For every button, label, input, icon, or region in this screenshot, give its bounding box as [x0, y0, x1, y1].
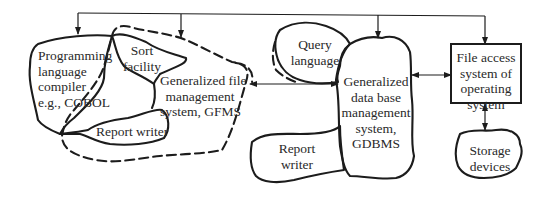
label-line: Generalized file	[160, 73, 240, 89]
sort-facility-label: Sort facility	[120, 43, 164, 74]
label-line: Report writer	[96, 124, 168, 140]
label-line: data base	[340, 90, 412, 106]
report-writer-left-label: Report writer	[96, 124, 168, 140]
label-line: language	[38, 64, 112, 80]
label-line: system,	[340, 121, 412, 137]
label-line: compiler	[38, 79, 112, 95]
label-line: Storage	[460, 143, 520, 159]
report-writer-right-label: Report writer	[272, 141, 322, 172]
label-line: language	[290, 53, 340, 69]
label-line: facility	[120, 59, 164, 75]
file-access-label: File access system of operating system	[451, 50, 521, 112]
label-line: GDBMS	[340, 136, 412, 152]
label-line: Programming	[38, 48, 112, 64]
gfms-divider	[152, 84, 155, 108]
label-line: Sort	[120, 43, 164, 59]
label-line: system	[451, 97, 521, 113]
label-line: management	[160, 89, 240, 105]
query-language-label: Query language	[290, 37, 340, 68]
compiler-label: Programming language compiler e.g., COBO…	[38, 48, 112, 110]
gdbms-label: Generalized data base management system,…	[340, 74, 412, 152]
label-line: Generalized	[340, 74, 412, 90]
label-line: Query	[290, 37, 340, 53]
diagram-canvas: Programming language compiler e.g., COBO…	[0, 0, 543, 198]
label-line: system of	[451, 66, 521, 82]
storage-devices-label: Storage devices	[460, 143, 520, 174]
label-line: devices	[460, 159, 520, 175]
label-line: File access	[451, 50, 521, 66]
label-line: system, GFMS	[160, 104, 240, 120]
label-line: operating	[451, 81, 521, 97]
label-line: writer	[272, 157, 322, 173]
label-line: e.g., COBOL	[38, 95, 112, 111]
label-line: Report	[272, 141, 322, 157]
gfms-label: Generalized file management system, GFMS	[160, 73, 240, 120]
label-line: management	[340, 105, 412, 121]
